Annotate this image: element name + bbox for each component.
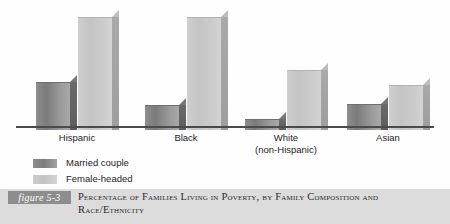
bar-top-face [112, 10, 119, 17]
legend-item-female-headed[interactable]: Female-headed [33, 172, 133, 186]
bar-top-face [321, 63, 328, 70]
bar-group-asian: 9.4% 16.0% [347, 4, 429, 130]
bar-top-face [279, 112, 286, 119]
bar-top-face [70, 75, 77, 82]
bar-side-face [321, 70, 328, 130]
legend-swatch-icon [33, 175, 57, 184]
bar-side-face [221, 17, 228, 130]
bar-group-hispanic: 17.3% 40.5% [36, 4, 118, 130]
bar-group-white-non-hispanic: 3.9% 21.5% [245, 4, 327, 130]
bar-chart-plot-area: 17.3% 40.5% 8.8% 40.5% [0, 0, 450, 130]
bar-side-face [423, 85, 430, 130]
bar-front-face [78, 17, 112, 130]
legend-item-married-couple[interactable]: Married couple [33, 156, 133, 170]
bar-top-face [221, 10, 228, 17]
bar-top-face [179, 98, 186, 105]
bar-side-face [279, 119, 286, 130]
figure-caption: Percentage of Families Living in Poverty… [78, 190, 440, 216]
bar-front-face [389, 85, 423, 130]
legend-item-label: Female-headed [66, 174, 133, 184]
x-axis-label-hispanic: Hispanic [30, 132, 124, 144]
axis-baseline [16, 126, 434, 128]
bar-front-face [187, 17, 221, 130]
bar-front-face [287, 70, 321, 130]
figure-container: 17.3% 40.5% 8.8% 40.5% [0, 0, 450, 224]
x-axis-label-black: Black [139, 132, 233, 144]
x-axis-label-white-non-hispanic: White (non-Hispanic) [239, 132, 333, 155]
bar-side-face [70, 82, 77, 130]
bar-top-face [423, 78, 430, 85]
legend-swatch-icon [33, 159, 57, 168]
bar-front-face [245, 119, 279, 130]
bar-side-face [112, 17, 119, 130]
bar-top-face [381, 97, 388, 104]
bar-front-face [36, 82, 70, 130]
legend-item-label: Married couple [66, 158, 129, 168]
chart-legend: Married couple Female-headed [33, 156, 133, 188]
figure-number-badge: figure 5-3 [8, 191, 71, 204]
bar-group-black: 8.8% 40.5% [145, 4, 227, 130]
x-axis-label-asian: Asian [341, 132, 435, 144]
